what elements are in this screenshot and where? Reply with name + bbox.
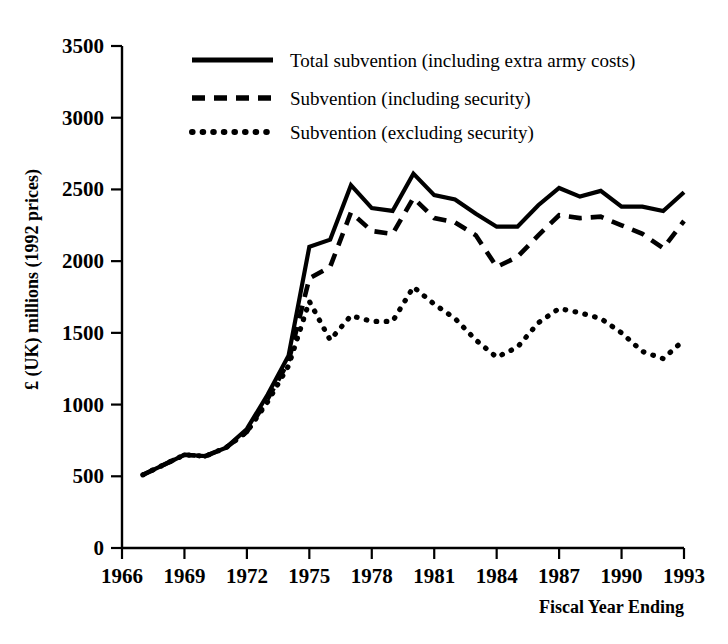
y-axis-title: £ (UK) millions (1992 prices) bbox=[22, 169, 43, 390]
x-axis-title: Fiscal Year Ending bbox=[539, 597, 684, 617]
x-axis-ticks: 1966196919721975197819811984198719901993 bbox=[101, 548, 705, 588]
legend: Total subvention (including extra army c… bbox=[192, 50, 635, 144]
y-tick-label: 500 bbox=[73, 464, 105, 488]
legend-label-subvention-including-security: Subvention (including security) bbox=[290, 88, 531, 110]
x-tick-label: 1978 bbox=[351, 564, 393, 588]
y-tick-label: 3500 bbox=[62, 34, 104, 58]
x-tick-label: 1993 bbox=[663, 564, 705, 588]
series-line-subvention-including-security bbox=[143, 198, 684, 475]
y-tick-label: 1500 bbox=[62, 321, 104, 345]
y-tick-label: 2500 bbox=[62, 177, 104, 201]
x-tick-label: 1969 bbox=[163, 564, 205, 588]
y-axis-ticks: 3500300025002000150010005000 bbox=[62, 34, 122, 560]
x-tick-label: 1981 bbox=[413, 564, 455, 588]
y-tick-label: 0 bbox=[94, 536, 105, 560]
chart-canvas: 3500300025002000150010005000 19661969197… bbox=[0, 0, 728, 644]
x-tick-label: 1987 bbox=[538, 564, 580, 588]
y-tick-label: 2000 bbox=[62, 249, 104, 273]
legend-label-total-subvention: Total subvention (including extra army c… bbox=[290, 50, 635, 72]
y-tick-label: 3000 bbox=[62, 106, 104, 130]
x-tick-label: 1975 bbox=[288, 564, 330, 588]
x-tick-label: 1984 bbox=[476, 564, 519, 588]
data-series-group bbox=[143, 174, 684, 475]
line-chart: 3500300025002000150010005000 19661969197… bbox=[0, 0, 728, 644]
legend-label-subvention-excluding-security: Subvention (excluding security) bbox=[290, 122, 534, 144]
x-tick-label: 1972 bbox=[226, 564, 268, 588]
x-tick-label: 1990 bbox=[601, 564, 643, 588]
x-tick-label: 1966 bbox=[101, 564, 143, 588]
y-tick-label: 1000 bbox=[62, 393, 104, 417]
